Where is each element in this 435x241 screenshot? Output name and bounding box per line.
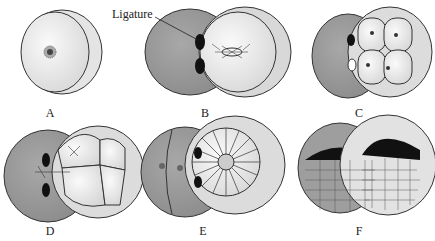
panel-a-egg [21, 10, 102, 94]
panel-e-both-halves-cleaving [141, 116, 285, 217]
panel-f-twin-blastulae [298, 115, 435, 215]
panel-c-four-cell [312, 7, 432, 98]
panel-label-c: C [349, 106, 369, 121]
panel-label-f: F [349, 224, 369, 239]
ligature-label: Ligature [112, 7, 153, 22]
panel-label-d: D [40, 224, 60, 239]
panel-label-e: E [193, 224, 213, 239]
panel-b-ligated-egg [145, 7, 291, 97]
embryo-diagram [0, 0, 435, 241]
panel-label-b: B [195, 106, 215, 121]
panel-label-a: A [40, 106, 60, 121]
panel-d-nucleus-crossing [4, 126, 144, 222]
